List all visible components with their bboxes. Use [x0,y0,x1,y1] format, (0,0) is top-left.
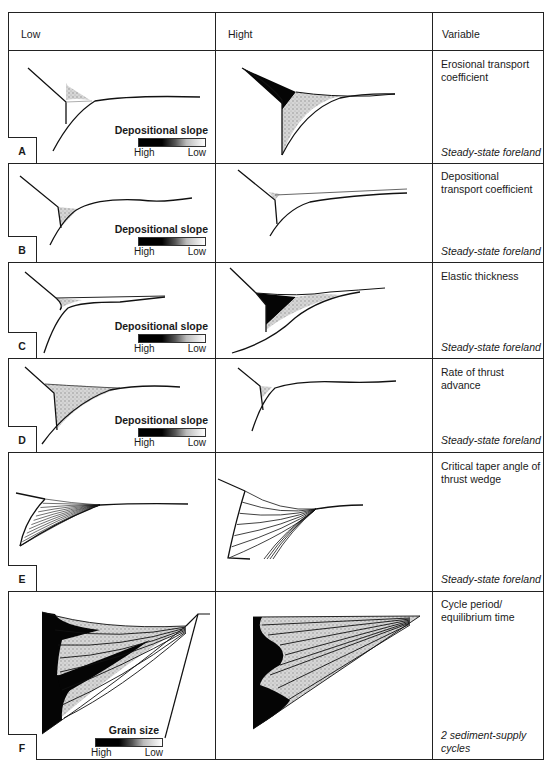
panel-f-high-profile [0,0,553,769]
legend-gradient-bar [95,738,163,747]
legend-title: Grain size [109,724,159,736]
legend-low-label: Low [145,747,163,758]
legend-grain-size-f: Grain size High Low [75,724,165,764]
legend-high-label: High [91,747,112,758]
